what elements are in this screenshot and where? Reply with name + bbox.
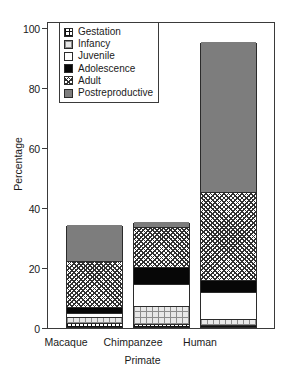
bar-macaque[interactable] (66, 226, 123, 328)
bar-human[interactable] (200, 43, 257, 328)
y-tick-0: 0 (0, 322, 47, 336)
y-tick-label: 100 (23, 23, 47, 35)
legend-swatch-postreproductive-icon (64, 89, 73, 98)
y-tick-80: 80 (0, 82, 47, 96)
y-tick-label: 20 (29, 263, 47, 275)
legend-item-postreproductive: Postreproductive (64, 87, 153, 99)
y-tick-20: 20 (0, 262, 47, 276)
legend-label: Postreproductive (78, 87, 153, 99)
y-tick-label: 80 (29, 83, 47, 95)
bar-segment-gestation (67, 323, 122, 327)
legend-swatch-infancy-icon (64, 40, 73, 49)
legend-label: Gestation (78, 26, 121, 38)
stacked-bar-chart: 100 80 60 40 20 0 Percentage (0, 0, 285, 380)
legend-item-gestation: Gestation (64, 26, 153, 38)
bar-segment-gestation (201, 325, 256, 327)
y-tick-label: 60 (29, 143, 47, 155)
y-tick-100: 100 (0, 22, 47, 36)
plot-area: Gestation Infancy Juvenile Adolescence A… (47, 22, 275, 329)
legend-label: Juvenile (78, 50, 115, 62)
legend-item-infancy: Infancy (64, 38, 153, 50)
bar-segment-adolescence (201, 280, 256, 292)
bar-chimpanzee[interactable] (133, 223, 190, 328)
bar-segment-infancy (134, 306, 189, 324)
legend-swatch-adult-icon (64, 76, 73, 85)
bar-segment-postreproductive (67, 225, 122, 261)
y-axis-title: Percentage (12, 104, 24, 224)
bar-segment-adult (201, 192, 256, 280)
bar-segment-adult (67, 261, 122, 307)
bar-segment-adolescence (134, 267, 189, 284)
legend-swatch-adolescence-icon (64, 64, 73, 73)
legend-item-adult: Adult (64, 75, 153, 87)
y-tick-label: 40 (29, 203, 47, 215)
bar-segment-juvenile (201, 292, 256, 319)
legend-label: Infancy (78, 38, 110, 50)
legend: Gestation Infancy Juvenile Adolescence A… (59, 22, 159, 103)
x-axis-title: Primate (0, 354, 285, 366)
y-tick-label: 0 (34, 323, 47, 335)
legend-swatch-gestation-icon (64, 28, 73, 37)
legend-item-juvenile: Juvenile (64, 50, 153, 62)
legend-swatch-juvenile-icon (64, 52, 73, 61)
bar-segment-juvenile (134, 284, 189, 307)
x-tick-label-human: Human (157, 336, 243, 348)
bar-segment-adult (134, 227, 189, 268)
legend-label: Adult (78, 75, 101, 87)
bar-segment-postreproductive (201, 42, 256, 192)
legend-item-adolescence: Adolescence (64, 63, 153, 75)
bar-segment-gestation (134, 324, 189, 327)
legend-label: Adolescence (78, 63, 135, 75)
